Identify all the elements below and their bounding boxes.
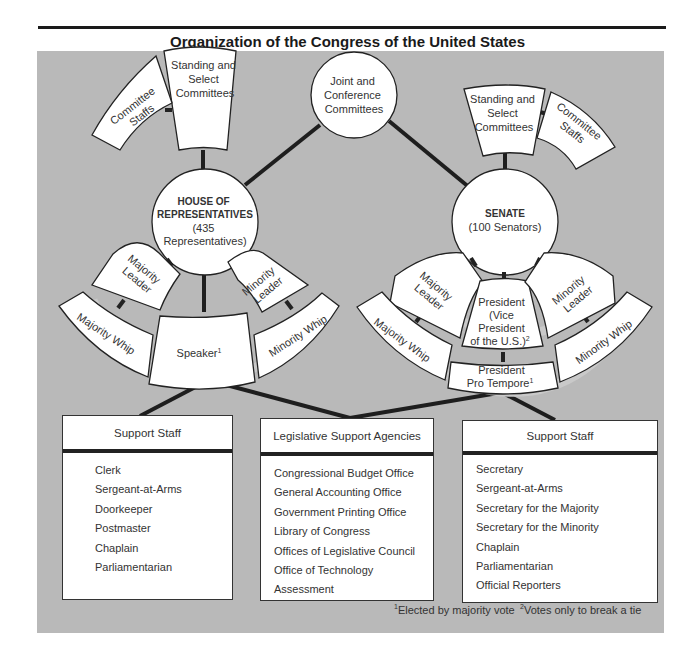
list-item: General Accounting Office: [274, 483, 433, 502]
house-committees: Standing and Select Committees Committee…: [92, 47, 239, 170]
list-item: Clerk: [95, 461, 232, 480]
list-item: Doorkeeper: [95, 500, 232, 519]
svg-text:President (Vice Pr: President (Vice President of the U.S.)2: [470, 296, 530, 347]
list-item: Chaplain: [476, 538, 657, 557]
svg-text:SENATE: SENATE: [485, 208, 525, 219]
list-item: Parliamentarian: [95, 558, 232, 577]
legislative-support-agencies-box: Legislative Support Agencies Congression…: [260, 418, 434, 601]
list-item: Secretary for the Majority: [476, 499, 657, 518]
connector-protempore-agencies: [350, 393, 498, 418]
house-support-staff-header: Support Staff: [63, 416, 232, 453]
list-item: Office of Technology Assessment: [274, 561, 433, 600]
list-item: Library of Congress: [274, 522, 433, 541]
connector-house-joint: [245, 125, 320, 185]
list-item: Postmaster: [95, 519, 232, 538]
list-item: Government Printing Office: [274, 503, 433, 522]
svg-text:Joint and Conference: Joint and Conference Committees: [324, 75, 384, 115]
list-item: Sergeant-at-Arms: [476, 479, 657, 498]
list-item: Offices of Legislative Council: [274, 542, 433, 561]
footnote-2: 2Votes only to break a tie: [520, 603, 641, 616]
agencies-header: Legislative Support Agencies: [261, 419, 433, 456]
list-item: Secretary: [476, 460, 657, 479]
joint-conference-committees-node[interactable]: Joint and Conference Committees: [311, 52, 397, 138]
svg-text:Speaker1: Speaker1: [177, 347, 222, 359]
list-item: Secretary for the Minority: [476, 518, 657, 537]
senate-support-staff-list: Secretary Sergeant-at-Arms Secretary for…: [463, 455, 657, 596]
senate-committees: Standing and Select Committees Committee…: [464, 85, 615, 172]
list-item: Official Reporters: [476, 576, 657, 595]
svg-text:(100 Senators): (100 Senators): [469, 221, 542, 233]
connector-protempore-senate-staff: [503, 393, 555, 420]
house-support-staff-list: Clerk Sergeant-at-Arms Doorkeeper Postma…: [63, 453, 232, 577]
list-item: Parliamentarian: [476, 557, 657, 576]
footnote-1: 1Elected by majority vote: [394, 603, 515, 616]
senate-leadership: Majority Leader Minority Leader Presiden…: [357, 253, 652, 394]
list-item: Congressional Budget Office: [274, 464, 433, 483]
connector-speaker-agencies: [215, 382, 350, 418]
senate-support-staff-box: Support Staff Secretary Sergeant-at-Arms…: [462, 420, 658, 603]
connector-joint-senate: [389, 121, 470, 188]
list-item: Chaplain: [95, 539, 232, 558]
list-item: Sergeant-at-Arms: [95, 480, 232, 499]
house-support-staff-box: Support Staff Clerk Sergeant-at-Arms Doo…: [62, 415, 233, 600]
agencies-list: Congressional Budget Office General Acco…: [261, 456, 433, 600]
senate-support-staff-header: Support Staff: [463, 421, 657, 455]
